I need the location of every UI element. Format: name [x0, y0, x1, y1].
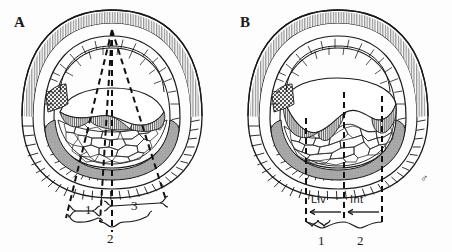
panel-b-letter: B [240, 14, 250, 30]
panel-b-region-liv-label: Liv [311, 193, 326, 205]
panel-b-bracket-1-label: 1 [318, 233, 325, 248]
panel-b-sex-symbol: ♂ [420, 172, 428, 184]
panel-b-bracket-2-label: 2 [357, 233, 364, 248]
figure-svg: A [0, 0, 452, 252]
panel-a-bracket-2-label: 2 [107, 231, 114, 246]
panel-a-letter: A [14, 14, 25, 30]
panel-b-region-int-label: Int [350, 193, 363, 205]
figure-container: A [0, 0, 452, 252]
panel-a-bracket-1-label: 1 [85, 202, 92, 217]
panel-a-bracket-3-label: 3 [131, 198, 138, 213]
